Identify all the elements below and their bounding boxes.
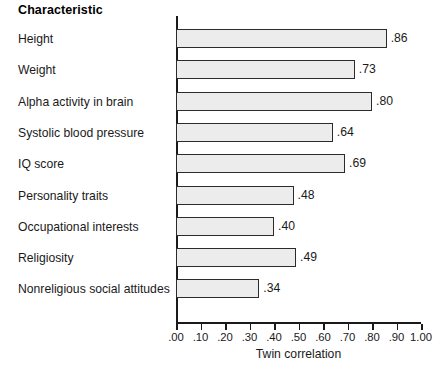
bar	[176, 217, 274, 236]
x-axis-tick	[299, 324, 301, 330]
bar	[176, 154, 345, 173]
table-row: Systolic blood pressure.64	[0, 123, 445, 143]
table-row: Alpha activity in brain.80	[0, 92, 445, 112]
row-label: Occupational interests	[18, 217, 139, 237]
table-row: Religiosity.49	[0, 248, 445, 268]
bar	[176, 279, 259, 298]
x-axis-tick	[201, 324, 203, 330]
x-axis-tick-label: .30	[242, 331, 258, 343]
table-row: Occupational interests.40	[0, 217, 445, 237]
bar	[176, 123, 333, 142]
bar-value-label: .69	[349, 154, 366, 173]
bar-value-label: .48	[298, 186, 315, 205]
bar-value-label: .80	[376, 92, 393, 111]
row-label: Height	[18, 29, 53, 49]
x-axis-tick	[225, 324, 227, 330]
x-axis-tick	[250, 324, 252, 330]
x-axis-tick-label: .00	[168, 331, 184, 343]
row-label: Nonreligious social attitudes	[18, 279, 170, 299]
bar	[176, 92, 372, 111]
table-row: Personality traits.48	[0, 186, 445, 206]
x-axis-tick-label: .60	[315, 331, 331, 343]
bar-value-label: .49	[300, 248, 317, 267]
table-row: Weight.73	[0, 60, 445, 80]
bar-value-label: .86	[391, 29, 408, 48]
row-label: Religiosity	[18, 248, 74, 268]
x-axis-tick	[176, 324, 178, 330]
x-axis-tick	[274, 324, 276, 330]
x-axis-tick-label: .80	[364, 331, 380, 343]
x-axis-title: Twin correlation	[176, 347, 421, 361]
row-label: Systolic blood pressure	[18, 123, 144, 143]
twin-correlation-bar-chart: Characteristic Height.86Weight.73Alpha a…	[0, 0, 445, 371]
bar-value-label: .34	[263, 279, 280, 298]
x-axis-tick-label: .90	[389, 331, 405, 343]
x-axis-tick-label: .20	[217, 331, 233, 343]
bar	[176, 60, 355, 79]
table-row: Nonreligious social attitudes.34	[0, 279, 445, 299]
bar-value-label: .73	[359, 60, 376, 79]
x-axis-tick-label: .40	[266, 331, 282, 343]
x-axis-tick-label: .50	[291, 331, 307, 343]
bar	[176, 29, 387, 48]
bar	[176, 186, 294, 205]
x-axis-tick-label: 1.00	[410, 331, 432, 343]
x-axis-tick	[323, 324, 325, 330]
table-row: Height.86	[0, 29, 445, 49]
bar	[176, 248, 296, 267]
bar-value-label: .64	[337, 123, 354, 142]
x-axis-tick	[397, 324, 399, 330]
x-axis-tick	[348, 324, 350, 330]
row-label: Personality traits	[18, 186, 108, 206]
row-label: Alpha activity in brain	[18, 92, 133, 112]
x-axis-tick	[372, 324, 374, 330]
table-row: IQ score.69	[0, 154, 445, 174]
bar-value-label: .40	[278, 217, 295, 236]
row-label: Weight	[18, 60, 56, 80]
x-axis-tick-label: .70	[340, 331, 356, 343]
row-label: IQ score	[18, 154, 64, 174]
bar-rows: Height.86Weight.73Alpha activity in brai…	[0, 0, 445, 371]
x-axis-tick-label: .10	[193, 331, 209, 343]
x-axis-tick	[421, 324, 423, 330]
